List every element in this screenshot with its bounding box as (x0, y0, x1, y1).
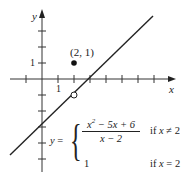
case2-condition: if x = 2 (150, 158, 180, 169)
x-axis-label: x (169, 84, 174, 95)
y-axis-arrow-icon (39, 9, 45, 18)
piecewise-equation: y = { x2 − 5x + 6 x − 2 if x ≠ 2 1 if x … (50, 115, 187, 175)
hole-open-circle (71, 92, 77, 98)
x-tick-label-1: 1 (56, 84, 61, 94)
equation-lhs: y = (50, 135, 63, 146)
case1-fraction: x2 − 5x + 6 x − 2 (82, 117, 140, 144)
y-axis-label: y (32, 11, 37, 22)
x-axis-arrow-icon (168, 76, 176, 82)
case2-value: 1 (84, 158, 89, 169)
case1-numerator: x2 − 5x + 6 (82, 117, 140, 132)
point-filled-dot (71, 60, 77, 66)
case1-denominator: x − 2 (82, 132, 140, 144)
y-tick-label-1: 1 (30, 58, 35, 68)
brace-icon: { (70, 119, 82, 163)
point-label: (2, 1) (70, 47, 94, 58)
case1-condition: if x ≠ 2 (150, 125, 180, 136)
